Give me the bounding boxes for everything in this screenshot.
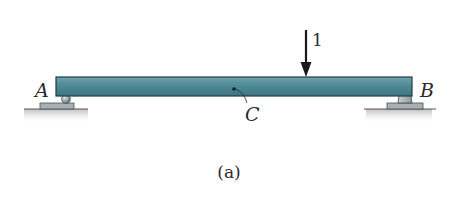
figure-caption: (a)	[217, 162, 240, 182]
ground-left	[24, 109, 88, 123]
label-b: B	[419, 79, 434, 101]
roller-base-plate	[40, 103, 74, 109]
load-arrow-icon	[301, 30, 312, 77]
pin-base-plate	[387, 103, 423, 109]
support-a-roller	[24, 95, 88, 124]
label-load: 1	[312, 30, 323, 50]
label-c: C	[245, 103, 260, 125]
beam-diagram: A B C 1 (a)	[0, 0, 460, 210]
beam	[56, 77, 412, 96]
label-a: A	[33, 79, 49, 101]
ground-right	[366, 109, 432, 123]
